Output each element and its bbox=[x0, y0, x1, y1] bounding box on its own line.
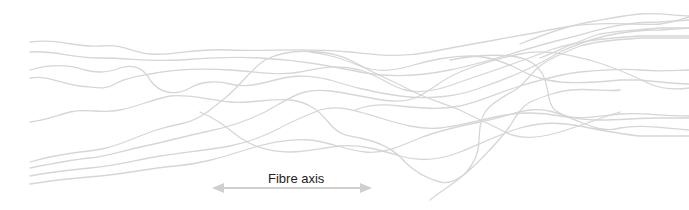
fibre-4 bbox=[30, 36, 689, 92]
fibre-lines bbox=[0, 0, 689, 210]
fibre-5 bbox=[30, 89, 620, 182]
fibre-3 bbox=[30, 28, 689, 98]
fibre-13 bbox=[430, 38, 689, 200]
arrowhead-right-icon bbox=[360, 183, 372, 193]
fibre-axis-label: Fibre axis bbox=[268, 171, 324, 186]
fibre-1 bbox=[30, 17, 689, 55]
fibre-2 bbox=[30, 20, 689, 76]
arrowhead-left-icon bbox=[212, 183, 224, 193]
fibre-8 bbox=[30, 108, 689, 176]
fibre-diagram: Fibre axis bbox=[0, 0, 689, 210]
